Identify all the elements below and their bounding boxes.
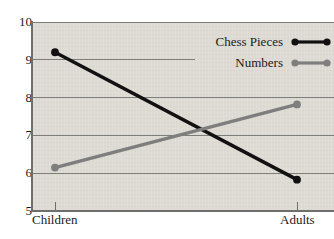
gridline-7 bbox=[31, 135, 334, 136]
y-axis-line bbox=[31, 21, 33, 212]
gridline-6 bbox=[31, 173, 334, 174]
line-chart: 1098765 ChildrenAdults Chess Pieces Numb… bbox=[0, 0, 334, 239]
x-tick-label-children: Children bbox=[32, 213, 78, 227]
gridline-8 bbox=[31, 97, 334, 98]
line-with-dots-icon bbox=[290, 36, 332, 48]
line-with-dots-icon bbox=[290, 57, 332, 69]
y-tick-label-9: 9 bbox=[8, 53, 32, 66]
gridline-10 bbox=[31, 22, 334, 23]
x-tick-mark-children bbox=[55, 202, 56, 211]
gridline-9 bbox=[31, 59, 195, 60]
y-tick-label-5: 5 bbox=[8, 204, 32, 217]
y-tick-label-8: 8 bbox=[8, 91, 32, 104]
legend-label-numbers: Numbers bbox=[235, 56, 283, 69]
legend-item-chess-pieces: Chess Pieces bbox=[186, 33, 332, 50]
x-tick-label-adults: Adults bbox=[280, 213, 315, 227]
legend-label-chess-pieces: Chess Pieces bbox=[215, 35, 283, 48]
legend-item-numbers: Numbers bbox=[186, 54, 332, 71]
y-tick-label-6: 6 bbox=[8, 166, 32, 179]
legend: Chess Pieces Numbers bbox=[186, 33, 332, 75]
y-tick-label-7: 7 bbox=[8, 128, 32, 141]
y-tick-label-10: 10 bbox=[8, 15, 32, 28]
x-tick-mark-adults bbox=[297, 202, 298, 211]
